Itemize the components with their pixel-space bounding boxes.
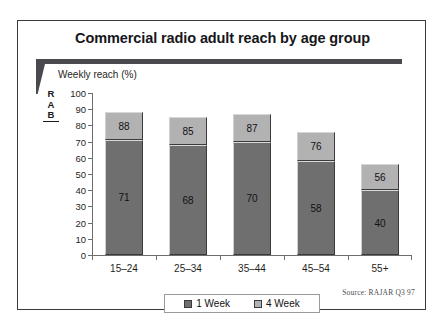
bar-value-1-week: 58 [298, 203, 334, 214]
y-axis-tick-label: 40 [62, 185, 86, 196]
bar-value-1-week: 71 [106, 192, 142, 203]
bar-segment-1-week[interactable]: 71 [105, 140, 143, 255]
bar-segment-1-week[interactable]: 58 [297, 161, 335, 255]
y-axis-tick [88, 206, 93, 207]
y-axis-tick [88, 223, 93, 224]
bar-value-4-week: 88 [106, 121, 142, 132]
y-axis-tick [88, 174, 93, 175]
rab-logo-line-3: B [43, 110, 59, 122]
bar-value-4-week: 85 [170, 126, 206, 137]
y-axis-tick-label: 80 [62, 120, 86, 131]
x-axis-label: 25–34 [156, 263, 220, 274]
rab-logo: R A B [43, 89, 59, 122]
bar-value-4-week: 56 [362, 172, 398, 183]
rab-logo-line-1: R [43, 89, 59, 100]
chart-legend: 1 Week4 Week [164, 294, 320, 313]
source-credit: Source: RAJAR Q3 97 [342, 288, 415, 297]
bar-group[interactable]: 8871 [105, 112, 143, 255]
bar-segment-4-week[interactable]: 85 [169, 117, 207, 145]
y-axis-tick [88, 109, 93, 110]
y-axis-tick-label: 90 [62, 104, 86, 115]
legend-label: 1 Week [196, 298, 230, 309]
x-axis-label: 15–24 [92, 263, 156, 274]
y-axis-tick-label: 0 [62, 250, 86, 261]
x-axis-label: 55+ [348, 263, 412, 274]
y-axis-tick-label: 10 [62, 234, 86, 245]
bar-segment-4-week[interactable]: 56 [361, 164, 399, 190]
y-axis-tick [88, 142, 93, 143]
x-axis-line [92, 255, 412, 256]
title-rule-horizontal [36, 59, 402, 64]
x-axis-label: 35–44 [220, 263, 284, 274]
y-axis-tick-label: 30 [62, 201, 86, 212]
y-axis-tick-label: 70 [62, 137, 86, 148]
bar-group[interactable]: 7658 [297, 132, 335, 255]
legend-label: 4 Week [266, 298, 300, 309]
x-axis-tick [220, 255, 221, 260]
legend-entry[interactable]: 4 Week [254, 298, 300, 309]
y-axis-tick-label: 20 [62, 218, 86, 229]
bar-segment-4-week[interactable]: 88 [105, 112, 143, 140]
y-axis-tick [88, 158, 93, 159]
bar-segment-1-week[interactable]: 68 [169, 145, 207, 255]
bar-value-1-week: 68 [170, 195, 206, 206]
bar-group[interactable]: 5640 [361, 164, 399, 255]
plot-area: 0102030405060708090100 88718568877076585… [92, 93, 412, 255]
y-axis-tick [88, 190, 93, 191]
y-axis-tick-label: 60 [62, 153, 86, 164]
bar-segment-1-week[interactable]: 70 [233, 142, 271, 255]
y-axis-tick-label: 50 [62, 169, 86, 180]
bar-value-1-week: 70 [234, 193, 270, 204]
legend-swatch-icon [184, 300, 192, 308]
page-title: Commercial radio adult reach by age grou… [18, 30, 427, 46]
bar-segment-4-week[interactable]: 76 [297, 132, 335, 161]
y-axis-tick-label: 100 [62, 88, 86, 99]
y-axis-caption: Weekly reach (%) [58, 69, 137, 80]
bar-value-4-week: 76 [298, 141, 334, 152]
legend-swatch-icon [254, 300, 262, 308]
y-axis-tick [88, 239, 93, 240]
x-axis-label: 45–54 [284, 263, 348, 274]
x-axis-tick [284, 255, 285, 260]
bar-value-1-week: 40 [362, 218, 398, 229]
bar-segment-1-week[interactable]: 40 [361, 190, 399, 255]
x-axis-tick [348, 255, 349, 260]
bar-value-4-week: 87 [234, 123, 270, 134]
legend-entry[interactable]: 1 Week [184, 298, 230, 309]
bar-group[interactable]: 8568 [169, 117, 207, 255]
y-axis-tick [88, 125, 93, 126]
x-axis-tick [411, 255, 412, 260]
y-axis-tick [88, 93, 93, 94]
bar-group[interactable]: 8770 [233, 114, 271, 255]
x-axis-tick [156, 255, 157, 260]
chart-panel: Commercial radio adult reach by age grou… [17, 20, 426, 310]
x-axis-tick [92, 255, 93, 260]
bar-segment-4-week[interactable]: 87 [233, 114, 271, 142]
